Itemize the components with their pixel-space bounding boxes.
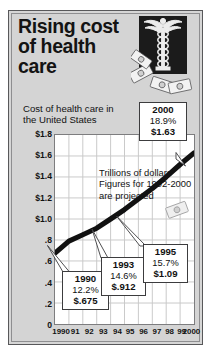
y-tick-1-8: $1.8 [20,129,52,139]
callout-1993-year: 1993 [106,260,141,271]
callout-1990-value: $.675 [67,296,104,307]
money-bills-icon [131,15,197,97]
page-title: Rising cost of health care [18,16,136,76]
x-tick-94: 94 [113,327,122,336]
callout-1995: 1995 15.7% $1.09 [143,244,188,283]
y-tick-0-6: .6 [20,256,52,266]
callout-1990-year: 1990 [67,274,104,285]
y-tick-0: 0 [20,320,52,330]
callout-1995-year: 1995 [148,247,183,258]
callout-1995-pct: 15.7% [148,258,183,269]
callout-1990-pct: 12.2% [67,285,104,296]
chart-note: Trillions of dollars Figures for 1992-20… [99,167,191,201]
x-axis-labels: 1990 91 92 93 94 95 96 97 98 99 2000 [54,327,195,339]
callout-1993-pct: 14.6% [106,271,141,282]
callout-1993-value: $.912 [106,282,141,293]
y-axis-labels: $1.8 $1.6 $1.4 $1.2 $1.0 .8 .6 .4 .2 0 [20,134,52,325]
callout-1993: 1993 14.6% $.912 [101,257,146,296]
x-tick-2000: 2000 [183,327,201,336]
callout-2000-year: 2000 [144,105,182,116]
x-tick-93: 93 [99,327,108,336]
y-tick-1-4: $1.4 [20,171,52,181]
callout-2000: 2000 18.9% $1.63 [139,102,187,141]
x-tick-91: 91 [71,327,80,336]
y-tick-0-8: .8 [20,235,52,245]
callout-2000-value: $1.63 [144,127,182,138]
y-tick-1-2: $1.2 [20,193,52,203]
y-tick-1-6: $1.6 [20,150,52,160]
x-tick-97: 97 [153,327,162,336]
x-tick-1990: 1990 [52,327,70,336]
header-artwork [131,15,197,97]
x-tick-95: 95 [126,327,135,336]
y-tick-0-4: .4 [20,278,52,288]
chart-caption: Cost of health care in the United States [23,103,145,126]
y-tick-0-2: .2 [20,299,52,309]
x-tick-96: 96 [139,327,148,336]
x-tick-98: 98 [165,327,174,336]
callout-1995-value: $1.09 [148,269,183,280]
callout-2000-pct: 18.9% [144,116,182,127]
x-tick-92: 92 [85,327,94,336]
y-tick-1-0: $1.0 [20,214,52,224]
infographic-root: Rising cost of health care [0,0,213,361]
